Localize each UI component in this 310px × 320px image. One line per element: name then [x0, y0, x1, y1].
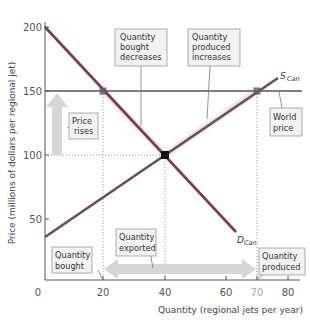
callout-quantity-bought: Quantity bought [52, 247, 92, 273]
svg-text:S: S [280, 71, 286, 81]
svg-text:20: 20 [97, 287, 110, 298]
svg-text:produced: produced [192, 42, 231, 52]
svg-text:World: World [273, 112, 296, 122]
svg-text:decreases: decreases [120, 52, 162, 62]
x-tick-labels: 0 20 40 60 70 80 [35, 287, 295, 298]
svg-text:produced: produced [262, 262, 301, 272]
svg-text:Quantity: Quantity [262, 251, 298, 261]
svg-text:40: 40 [159, 287, 172, 298]
svg-text:Quantity: Quantity [119, 232, 155, 242]
y-tick-labels: 200 150 100 50 [23, 22, 42, 225]
svg-text:Can: Can [287, 75, 300, 83]
x-axis-title: Quantity (regional jets per year) [158, 305, 303, 315]
svg-text:increases: increases [192, 52, 231, 62]
export-diagram: Quantity bought decreases Quantity produ… [0, 0, 310, 320]
svg-text:200: 200 [23, 22, 42, 33]
svg-text:bought: bought [120, 42, 150, 52]
point-quantity-bought-world-price [100, 88, 107, 95]
quantity-exported-arrow [104, 259, 256, 279]
equilibrium-point [161, 151, 169, 159]
supply-curve-label: S Can [280, 71, 300, 83]
callout-quantity-produced: Quantity produced [259, 248, 305, 275]
svg-text:price: price [273, 123, 293, 133]
svg-text:70: 70 [251, 287, 264, 298]
callout-quantity-bought-decreases: Quantity bought decreases [115, 29, 167, 66]
callout-world-price: World price [270, 108, 302, 136]
svg-text:Price: Price [72, 116, 92, 126]
point-quantity-produced-world-price [254, 88, 261, 95]
callout-quantity-produced-increases: Quantity produced increases [188, 29, 240, 66]
callout-price-rises: Price rises [69, 113, 98, 139]
price-rises-arrow [46, 93, 68, 155]
svg-text:80: 80 [282, 287, 295, 298]
demand-curve-label: D Can [237, 235, 257, 247]
y-axis-title: Price (millions of dollars per regional … [7, 62, 17, 245]
svg-text:Quantity: Quantity [120, 32, 156, 42]
svg-text:150: 150 [23, 86, 42, 97]
svg-text:D: D [237, 235, 244, 245]
svg-text:0: 0 [35, 287, 41, 298]
svg-text:Can: Can [244, 239, 257, 247]
svg-text:60: 60 [220, 287, 233, 298]
svg-text:exported: exported [119, 243, 156, 253]
callout-quantity-exported: Quantity exported [116, 229, 156, 256]
svg-text:rises: rises [74, 126, 93, 136]
svg-text:100: 100 [23, 150, 42, 161]
svg-text:Quantity: Quantity [55, 250, 91, 260]
svg-text:bought: bought [55, 261, 85, 271]
svg-text:Quantity: Quantity [192, 32, 228, 42]
svg-text:50: 50 [29, 214, 42, 225]
